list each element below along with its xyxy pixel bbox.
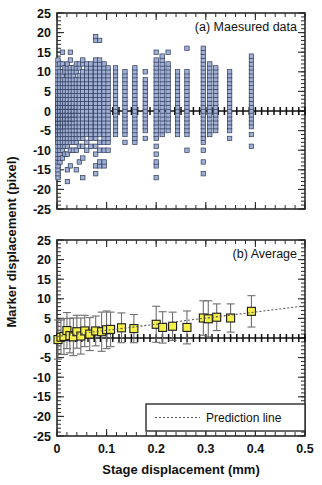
scatter-point: [166, 50, 170, 54]
scatter-point: [201, 172, 205, 176]
panel-title-a: (a) Maesured data: [195, 20, 297, 34]
x-axis-label: Stage displacement (mm): [102, 462, 260, 477]
y-tick-label: -20: [33, 410, 51, 424]
scatter-point: [185, 148, 189, 152]
scatter-point: [68, 50, 72, 54]
scatter-point: [185, 46, 189, 50]
x-tick-label: 0.4: [247, 442, 264, 456]
scatter-point: [160, 54, 164, 58]
y-tick-label: -15: [33, 390, 51, 404]
scatter-point: [123, 140, 127, 144]
y-tick-label: 0: [44, 332, 51, 346]
scatter-point: [60, 50, 64, 54]
scatter-point: [154, 160, 158, 164]
scatter-point: [249, 144, 253, 148]
y-tick-label: -25: [33, 203, 51, 217]
scatter-point: [68, 58, 72, 62]
y-tick-label: -5: [40, 351, 51, 365]
y-tick-label: -10: [33, 371, 51, 385]
scatter-point: [81, 175, 85, 179]
average-marker: [169, 322, 177, 330]
scatter-point: [102, 160, 106, 164]
scatter-point: [201, 46, 205, 50]
y-tick-label: 15: [37, 273, 51, 287]
scatter-point: [106, 66, 110, 70]
scatter-point: [249, 54, 253, 58]
scatter-point: [166, 62, 170, 66]
scatter-point: [133, 66, 137, 70]
scatter-point: [106, 148, 110, 152]
scatter-point: [81, 156, 85, 160]
scatter-point: [113, 66, 117, 70]
scatter-point: [214, 66, 218, 70]
average-marker: [247, 307, 255, 315]
y-tick-label: -25: [33, 430, 51, 444]
legend-label-prediction-line: Prediction line: [206, 411, 282, 425]
scatter-point: [185, 70, 189, 74]
x-tick-label: 0.5: [296, 442, 313, 456]
scatter-point: [143, 136, 147, 140]
scatter-point: [65, 179, 69, 183]
y-tick-label: -20: [33, 183, 51, 197]
average-marker: [117, 324, 125, 332]
scatter-point: [154, 175, 158, 179]
y-tick-label: 20: [37, 253, 51, 267]
scatter-point: [97, 160, 101, 164]
x-tick-label: 0.1: [98, 442, 115, 456]
scatter-point: [227, 136, 231, 140]
scatter-point: [97, 58, 101, 62]
figure-container: -25-20-15-10-50510152025(a) Maesured dat…: [0, 0, 322, 485]
y-tick-label: 5: [44, 312, 51, 326]
x-tick-label: 0: [54, 442, 61, 456]
y-tick-label: 25: [37, 234, 51, 248]
average-marker: [159, 323, 167, 331]
y-tick-label: 5: [44, 85, 51, 99]
scatter-point: [154, 144, 158, 148]
y-tick-label: 0: [44, 105, 51, 119]
y-tick-label: -10: [33, 144, 51, 158]
average-marker: [183, 323, 191, 331]
scatter-point: [227, 70, 231, 74]
scatter-point: [208, 62, 212, 66]
y-tick-label: 10: [37, 65, 51, 79]
scatter-point: [74, 168, 78, 172]
scatter-point: [89, 144, 93, 148]
scatter-point: [201, 160, 205, 164]
average-marker: [204, 315, 212, 323]
scatter-point: [143, 77, 147, 81]
y-tick-label: 15: [37, 46, 51, 60]
scatter-point: [154, 152, 158, 156]
scatter-point: [249, 132, 253, 136]
x-tick-label: 0.3: [197, 442, 214, 456]
y-tick-label: 25: [37, 7, 51, 21]
y-tick-label: 20: [37, 26, 51, 40]
scatter-point: [154, 50, 158, 54]
scatter-point: [201, 148, 205, 152]
y-axis-label: Marker displacement (pixel): [4, 156, 19, 327]
y-tick-label: -5: [40, 124, 51, 138]
scientific-figure: -25-20-15-10-50510152025(a) Maesured dat…: [0, 0, 322, 485]
average-marker: [130, 325, 138, 333]
scatter-point: [123, 70, 127, 74]
y-tick-label: -15: [33, 163, 51, 177]
scatter-point: [93, 172, 97, 176]
scatter-point: [97, 148, 101, 152]
scatter-point: [154, 58, 158, 62]
x-tick-label: 0.2: [148, 442, 165, 456]
scatter-point: [97, 38, 101, 42]
scatter-point: [175, 70, 179, 74]
scatter-point: [97, 140, 101, 144]
y-tick-label: 10: [37, 292, 51, 306]
scatter-point: [89, 62, 93, 66]
scatter-point: [143, 70, 147, 74]
scatter-point: [68, 164, 72, 168]
panel-title-b: (b) Average: [233, 247, 297, 261]
